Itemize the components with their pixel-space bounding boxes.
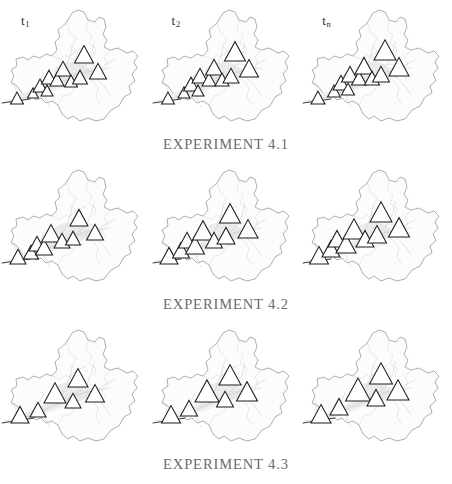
region-map-svg: [151, 320, 301, 453]
map-panel-exp43-t2: [151, 320, 302, 453]
map-panel-exp42-t2: [151, 160, 302, 293]
column-label-t1: t1: [21, 14, 29, 27]
region-map-svg: [0, 160, 150, 293]
caption-experiment-4-2: EXPERIMENT 4.2: [0, 293, 452, 313]
map-panel-exp41-t1: t1: [0, 0, 151, 133]
map-panel-exp42-t1: [0, 160, 151, 293]
map-panel-exp41-tn: tn: [301, 0, 452, 133]
experiment-row-3: EXPERIMENT 4.3: [0, 320, 452, 480]
caption-experiment-4-3: EXPERIMENT 4.3: [0, 453, 452, 473]
experiment-figure: t1: [0, 0, 452, 484]
region-map-svg: [151, 160, 301, 293]
map-basemap: [303, 330, 439, 441]
map-panel-exp41-t2: t2: [151, 0, 302, 133]
region-map-svg: [301, 160, 451, 293]
map-panel-exp42-tn: [301, 160, 452, 293]
region-map-svg: [0, 320, 150, 453]
column-label-tn: tn: [322, 14, 330, 27]
map-panel-exp43-t1: [0, 320, 151, 453]
experiment-row-2: EXPERIMENT 4.2: [0, 160, 452, 320]
experiment-row-1: t1: [0, 0, 452, 160]
map-row-2: [0, 160, 452, 293]
map-row-1: t1: [0, 0, 452, 133]
column-label-t2: t2: [172, 14, 180, 27]
caption-experiment-4-1: EXPERIMENT 4.1: [0, 133, 452, 153]
region-map-svg: [301, 320, 451, 453]
map-row-3: [0, 320, 452, 453]
map-panel-exp43-tn: [301, 320, 452, 453]
